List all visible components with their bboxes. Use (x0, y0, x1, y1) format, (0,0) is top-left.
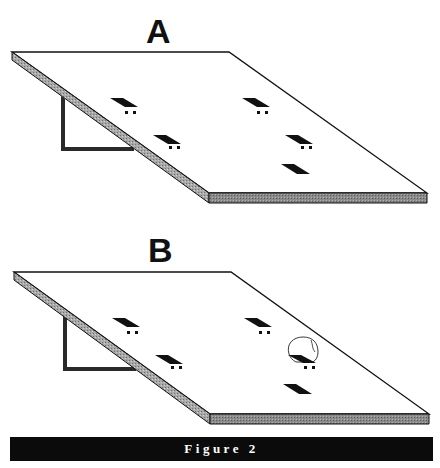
diagram-canvas (0, 0, 440, 468)
board-front-edge (209, 193, 427, 203)
panel-a-board (12, 52, 427, 203)
board-front-edge (210, 414, 429, 424)
board-surface (14, 272, 429, 414)
board-surface (12, 52, 427, 193)
figure: A B (0, 0, 440, 468)
figure-caption: Figure 2 (184, 441, 258, 457)
panel-b-board (14, 272, 429, 424)
caption-bar: Figure 2 (10, 437, 433, 461)
